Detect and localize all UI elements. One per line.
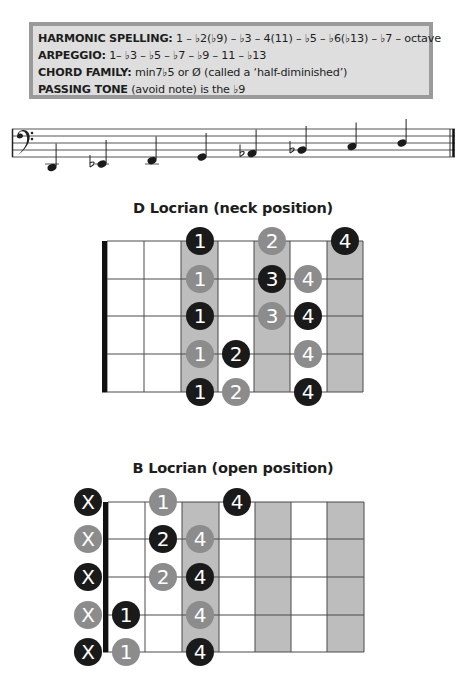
finger-dot-2: 2 [149, 525, 177, 553]
svg-text:X: X [81, 603, 95, 627]
muted-string-x-icon: X [74, 525, 102, 553]
finger-dot-2: 2 [149, 563, 177, 591]
finger-dot-1: 1 [112, 601, 140, 629]
svg-text:X: X [81, 527, 95, 551]
svg-text:4: 4 [194, 527, 207, 551]
finger-dot-1: 1 [112, 638, 140, 666]
svg-text:X: X [81, 640, 95, 664]
strings [108, 502, 364, 652]
finger-dot-4: 4 [186, 563, 214, 591]
muted-string-x-icon: X [74, 638, 102, 666]
svg-text:1: 1 [120, 603, 133, 627]
svg-text:X: X [81, 490, 95, 514]
nut [103, 502, 108, 653]
svg-text:2: 2 [157, 527, 170, 551]
finger-dot-4: 4 [186, 638, 214, 666]
muted-string-x-icon: X [74, 488, 102, 516]
finger-dot-4: 4 [186, 601, 214, 629]
svg-text:1: 1 [120, 640, 133, 664]
finger-dot-4: 4 [186, 525, 214, 553]
svg-text:X: X [81, 565, 95, 589]
finger-dot-4: 4 [223, 488, 251, 516]
svg-text:4: 4 [231, 490, 244, 514]
svg-text:1: 1 [157, 490, 170, 514]
muted-string-x-icon: X [74, 563, 102, 591]
finger-dot-1: 1 [149, 488, 177, 516]
svg-text:4: 4 [194, 603, 207, 627]
muted-string-x-icon: X [74, 601, 102, 629]
svg-text:2: 2 [157, 565, 170, 589]
svg-text:4: 4 [194, 640, 207, 664]
b-locrian-fretboard: XXXXX1424241414 [0, 0, 466, 698]
svg-text:4: 4 [194, 565, 207, 589]
